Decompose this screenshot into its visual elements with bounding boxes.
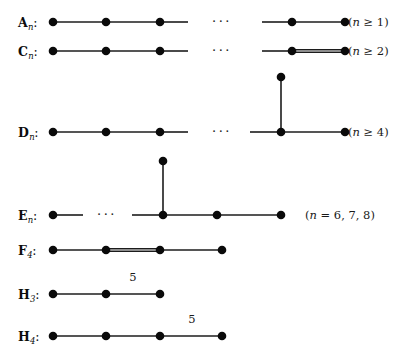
row-label-base-H4: H bbox=[18, 329, 30, 344]
node-H3-2 bbox=[156, 290, 165, 299]
row-label-En: En: bbox=[18, 208, 37, 223]
node-H4-2 bbox=[156, 332, 165, 341]
ellipsis-Cn: ··· bbox=[212, 43, 232, 58]
row-label-Cn: Cn: bbox=[18, 44, 38, 59]
row-label-subscript-H3: 3 bbox=[30, 293, 35, 303]
row-label-F4: F4: bbox=[18, 243, 37, 258]
node-Dn-3 bbox=[277, 128, 286, 137]
node-Cn-1 bbox=[102, 47, 111, 56]
node-An-3 bbox=[288, 18, 297, 27]
diagram-H3 bbox=[49, 290, 165, 299]
node-An-0 bbox=[49, 18, 58, 27]
ellipsis-Dn: ··· bbox=[212, 124, 232, 139]
range-note-En: (n = 6, 7, 8) bbox=[305, 208, 375, 222]
node-En-0 bbox=[49, 211, 58, 220]
row-label-colon-Cn: : bbox=[33, 44, 37, 59]
row-label-base-Cn: C bbox=[18, 44, 28, 59]
row-label-An: An: bbox=[18, 15, 37, 30]
diagram-Dn bbox=[49, 73, 350, 137]
diagram-En bbox=[49, 157, 286, 220]
dynkin-diagram-figure: An:(n ≥ 1)···Cn:(n ≥ 2)···Dn:(n ≥ 4)···E… bbox=[0, 0, 417, 362]
node-F4-1 bbox=[102, 246, 111, 255]
node-F4-3 bbox=[218, 246, 227, 255]
node-F4-2 bbox=[156, 246, 165, 255]
row-label-base-F4: F bbox=[18, 243, 27, 258]
node-En-4 bbox=[277, 211, 286, 220]
diagram-An bbox=[49, 18, 350, 27]
row-label-H3: H3: bbox=[18, 287, 39, 302]
node-H3-0 bbox=[49, 290, 58, 299]
node-Cn-2 bbox=[156, 47, 165, 56]
node-H4-0 bbox=[49, 332, 58, 341]
row-label-subscript-Cn: n bbox=[28, 50, 33, 60]
node-F4-0 bbox=[49, 246, 58, 255]
node-Cn-0 bbox=[49, 47, 58, 56]
diagram-H4 bbox=[49, 332, 227, 341]
diagram-Cn bbox=[49, 47, 350, 56]
row-label-base-An: A bbox=[18, 15, 28, 30]
node-H3-1 bbox=[102, 290, 111, 299]
range-note-Cn: (n ≥ 2) bbox=[348, 44, 389, 58]
node-Dn-1 bbox=[102, 128, 111, 137]
row-label-base-Dn: D bbox=[18, 125, 29, 140]
row-label-H4: H4: bbox=[18, 329, 39, 344]
range-note-An: (n ≥ 1) bbox=[348, 15, 389, 29]
node-Dn-0 bbox=[49, 128, 58, 137]
node-An-1 bbox=[102, 18, 111, 27]
diagram-F4 bbox=[49, 246, 227, 255]
row-label-subscript-En: n bbox=[28, 214, 33, 224]
row-label-Dn: Dn: bbox=[18, 125, 39, 140]
row-label-base-En: E bbox=[18, 208, 28, 223]
row-label-colon-En: : bbox=[33, 208, 37, 223]
row-label-base-H3: H bbox=[18, 287, 30, 302]
row-label-subscript-Dn: n bbox=[29, 131, 34, 141]
node-H4-1 bbox=[102, 332, 111, 341]
node-An-2 bbox=[156, 18, 165, 27]
row-label-subscript-An: n bbox=[28, 21, 33, 31]
ellipsis-En: ··· bbox=[97, 207, 117, 222]
node-H4-3 bbox=[218, 332, 227, 341]
node-En-1 bbox=[159, 211, 168, 220]
row-label-subscript-H4: 4 bbox=[30, 335, 35, 345]
edge-label-H4-0: 5 bbox=[188, 312, 195, 326]
row-label-colon-An: : bbox=[33, 15, 37, 30]
edge-label-H3-0: 5 bbox=[129, 270, 136, 284]
range-note-Dn: (n ≥ 4) bbox=[348, 125, 389, 139]
node-Cn-3 bbox=[288, 47, 297, 56]
node-En-2 bbox=[159, 157, 168, 166]
row-label-subscript-F4: 4 bbox=[27, 249, 32, 259]
node-Dn-4 bbox=[277, 73, 286, 82]
node-Dn-2 bbox=[156, 128, 165, 137]
node-En-3 bbox=[213, 211, 222, 220]
ellipsis-An: ··· bbox=[212, 14, 232, 29]
